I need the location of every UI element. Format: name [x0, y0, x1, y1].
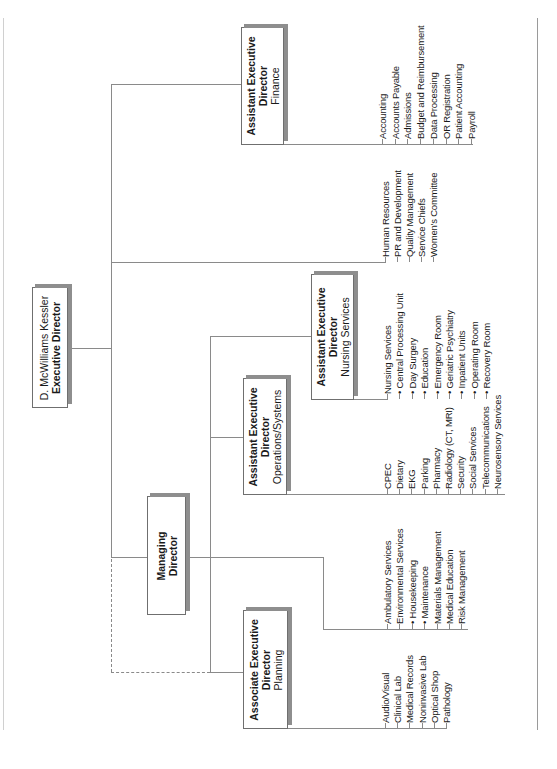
list-item-finance: Admissions	[402, 92, 413, 139]
nursing-title-line1: Assistant Executive	[315, 287, 327, 386]
list-item-finance: Budget and Reimbursement	[415, 26, 426, 140]
list-tick	[433, 139, 434, 144]
dashed-line-vertical	[111, 559, 112, 672]
list-tick	[434, 723, 435, 728]
list-tick	[448, 489, 449, 494]
list-tick	[411, 489, 412, 494]
list-item-staff: PR and Development	[392, 170, 403, 257]
list-item-managing-list: • Maintenance	[419, 566, 430, 624]
list-item-managing-list: Materials Management	[432, 531, 443, 624]
list-tick	[420, 139, 421, 144]
list-tick	[424, 624, 425, 629]
nursing-dept: Nursing Services	[339, 287, 351, 386]
operations-list-baseline	[287, 494, 505, 495]
list-tick	[385, 723, 386, 728]
list-tick	[458, 139, 459, 144]
executive-director-box[interactable]: D. McWilliams Kessler Executive Director	[32, 287, 68, 408]
planning-director-box[interactable]: Associate Executive Director Planning	[243, 610, 288, 729]
list-item-managing-list: Ambulatory Services	[382, 541, 393, 624]
list-item-nursing: • Geriatric Psychiatry	[444, 310, 455, 394]
list-item-nursing: Nursing Services	[382, 325, 393, 394]
managing-list-drop	[323, 557, 324, 629]
list-item-nursing: • Central Processing Unit	[394, 293, 405, 394]
list-tick	[460, 489, 461, 494]
operations-title-line2: Director	[259, 387, 271, 486]
list-item-staff: Human Resources	[380, 181, 391, 257]
list-item-operations: Telecommunications	[480, 407, 491, 489]
managing-list-baseline	[323, 629, 468, 630]
list-tick	[409, 257, 410, 262]
list-tick	[446, 723, 447, 728]
list-tick	[474, 394, 475, 399]
list-item-managing-list: Environmental Services	[394, 529, 405, 624]
list-tick	[385, 257, 386, 262]
list-item-operations: CPEC	[382, 463, 393, 489]
list-tick	[412, 624, 413, 629]
nursing-title-line2: Director	[327, 287, 339, 386]
list-item-operations: Dietary	[394, 460, 405, 489]
finance-title-line2: Director	[257, 36, 269, 135]
list-item-planning: Pathology	[441, 683, 452, 723]
page-border-left	[3, 18, 4, 730]
finance-dept: Finance	[269, 36, 281, 135]
managing-branch-spine	[210, 336, 211, 672]
list-item-managing-list: Risk Management	[456, 550, 467, 624]
list-tick	[424, 489, 425, 494]
list-tick	[437, 394, 438, 399]
list-item-operations: Neurosensory Services	[492, 395, 503, 489]
nursing-director-box[interactable]: Assistant Executive Director Nursing Ser…	[311, 274, 354, 400]
managing-title-line2: Director	[167, 531, 179, 580]
list-tick	[421, 257, 422, 262]
list-item-operations: Security	[455, 456, 466, 489]
list-item-finance: Patient Accounting	[453, 64, 464, 139]
finance-list-baseline	[283, 144, 473, 145]
list-tick	[397, 257, 398, 262]
nursing-list-baseline	[354, 399, 388, 400]
operations-title-line1: Assistant Executive	[247, 387, 259, 486]
list-tick	[407, 139, 408, 144]
list-tick	[461, 624, 462, 629]
list-tick	[472, 489, 473, 494]
list-tick	[449, 394, 450, 399]
planning-list-baseline	[288, 728, 447, 729]
list-item-finance: Payroll	[466, 111, 477, 139]
list-item-planning: Optical Shop	[429, 671, 440, 723]
list-tick	[433, 257, 434, 262]
connector-exec-to-spine	[70, 348, 111, 349]
connector-to-operations	[210, 437, 243, 438]
executive-name: D. McWilliams Kessler	[38, 295, 50, 399]
list-tick	[387, 394, 388, 399]
list-tick	[437, 624, 438, 629]
operations-dept: Operations/Systems	[271, 387, 283, 486]
page-border-right	[537, 18, 538, 730]
list-tick	[387, 489, 388, 494]
list-item-operations: Social Services	[467, 427, 478, 489]
list-item-staff: Quality Management	[404, 173, 415, 257]
list-tick	[395, 139, 396, 144]
main-spine-line	[111, 84, 112, 558]
connector-to-nursing	[210, 336, 311, 337]
list-tick	[412, 394, 413, 399]
list-item-managing-list: Medical Education	[444, 550, 455, 624]
list-item-operations: Pharmacy	[431, 448, 442, 489]
list-item-nursing: • Day Surgery	[407, 338, 418, 394]
list-tick	[422, 723, 423, 728]
operations-director-box[interactable]: Assistant Executive Director Operations/…	[243, 378, 287, 495]
list-item-planning: Clinical Lab	[392, 676, 403, 723]
managing-director-box[interactable]: Managing Director	[147, 496, 186, 615]
finance-title-line1: Assistant Executive	[245, 36, 257, 135]
list-item-finance: Accounts Payable	[390, 66, 401, 139]
managing-title-line1: Managing	[155, 531, 167, 580]
finance-director-box[interactable]: Assistant Executive Director Finance	[241, 27, 284, 145]
list-tick	[436, 489, 437, 494]
list-tick	[399, 624, 400, 629]
dashed-line-to-planning	[111, 672, 210, 673]
list-item-managing-list: • Housekeeping	[407, 560, 418, 624]
list-tick	[449, 624, 450, 629]
planning-title-line1: Associate Executive	[248, 619, 260, 721]
list-item-nursing: • Inpatient Units	[456, 331, 467, 394]
list-tick	[471, 139, 472, 144]
list-tick	[497, 489, 498, 494]
list-tick	[399, 489, 400, 494]
list-item-finance: Accounting	[377, 94, 388, 139]
